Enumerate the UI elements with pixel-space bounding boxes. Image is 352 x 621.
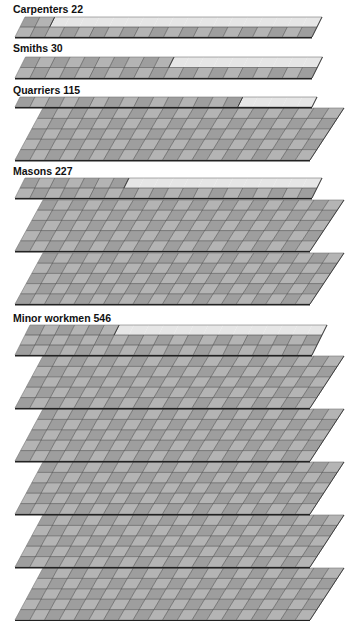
isometric-grid-chart bbox=[0, 0, 352, 621]
hundred-slab bbox=[15, 200, 344, 252]
category-group bbox=[15, 17, 322, 38]
category-group bbox=[15, 325, 344, 621]
hundred-slab bbox=[15, 108, 344, 161]
hundred-slab bbox=[15, 462, 344, 515]
remainder-strip bbox=[15, 17, 322, 38]
category-group bbox=[15, 178, 344, 305]
remainder-strip bbox=[15, 97, 317, 108]
hundred-slab bbox=[15, 253, 344, 305]
hundred-slab bbox=[15, 409, 344, 462]
hundred-slab bbox=[15, 356, 344, 409]
remainder-strip bbox=[15, 178, 322, 199]
remainder-strip bbox=[15, 325, 327, 356]
hundred-slab bbox=[15, 568, 344, 621]
hundred-slab bbox=[15, 515, 344, 568]
category-group bbox=[15, 57, 323, 79]
category-group bbox=[15, 97, 344, 161]
remainder-strip bbox=[15, 57, 323, 79]
